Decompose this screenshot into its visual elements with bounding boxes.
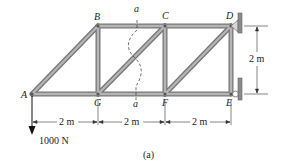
joint-C [163, 24, 166, 27]
roller-support-E [233, 78, 243, 100]
dimension-span-3: 2 m [192, 116, 208, 127]
dimension-span-2: 2 m [124, 116, 140, 127]
node-label-D: D [225, 10, 234, 21]
dimension-span-1: 2 m [59, 116, 75, 127]
truss-diagram: a a A B C D E F G 1000 N 2 m 2 m 2 m [0, 0, 286, 164]
load-label: 1000 N [39, 135, 69, 146]
node-label-C: C [162, 10, 169, 21]
node-label-G: G [94, 97, 101, 108]
figure-caption: (a) [143, 149, 154, 161]
joint-B [96, 24, 99, 27]
node-label-B: B [94, 11, 100, 22]
load-arrow [29, 96, 36, 135]
joint-G [96, 92, 99, 95]
joint-F [163, 92, 166, 95]
node-label-A: A [20, 89, 28, 100]
section-label-top: a [134, 3, 139, 14]
joint-A [30, 92, 33, 95]
dimension-height: 2 m [249, 53, 265, 64]
section-label-bottom: a [133, 98, 138, 109]
